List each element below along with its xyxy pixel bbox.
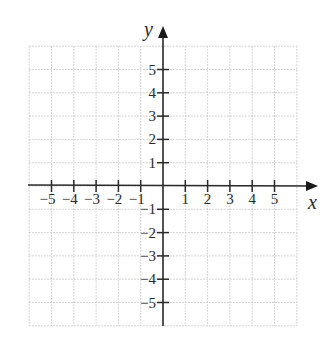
coordinate-plane: −5−4−3−2−11234554321−1−2−3−4−5 x y bbox=[0, 0, 330, 343]
y-tick-label: −3 bbox=[140, 248, 156, 264]
y-axis-label: y bbox=[142, 18, 153, 41]
x-tick-label: 4 bbox=[248, 191, 256, 207]
x-axis bbox=[28, 185, 314, 186]
x-axis-arrow-icon bbox=[306, 181, 318, 191]
x-tick-label: −4 bbox=[62, 191, 78, 207]
x-tick-label: −5 bbox=[40, 191, 56, 207]
x-tick-label: −3 bbox=[84, 191, 100, 207]
y-tick-label: 5 bbox=[149, 62, 157, 78]
x-tick-label: 1 bbox=[182, 191, 190, 207]
y-tick-label: 4 bbox=[149, 85, 157, 101]
y-tick-label: −1 bbox=[140, 201, 156, 217]
y-tick-label: −4 bbox=[140, 271, 156, 287]
y-axis-arrow-icon bbox=[158, 26, 168, 38]
y-tick-label: 3 bbox=[149, 108, 157, 124]
x-tick-label: 5 bbox=[271, 191, 279, 207]
x-tick-label: 2 bbox=[204, 191, 212, 207]
x-tick-label: −2 bbox=[106, 191, 122, 207]
x-tick-label: 3 bbox=[226, 191, 234, 207]
x-axis-label: x bbox=[307, 191, 317, 213]
y-tick-label: 1 bbox=[149, 155, 157, 171]
y-tick-label: −5 bbox=[140, 295, 156, 311]
y-tick-label: −2 bbox=[140, 225, 156, 241]
y-tick-label: 2 bbox=[149, 131, 157, 147]
